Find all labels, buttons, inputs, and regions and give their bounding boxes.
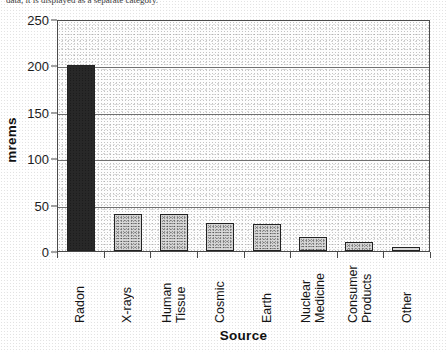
bar-earth[interactable]	[253, 224, 281, 251]
x-label-consumer-products: ConsumerProducts	[347, 259, 374, 323]
bar-other[interactable]	[392, 247, 420, 251]
x-tick-mark-8	[430, 252, 431, 258]
x-label-slot-0: Radon	[57, 259, 104, 323]
bar-slot-5	[290, 21, 336, 251]
bar-series	[58, 21, 429, 251]
bar-cosmic[interactable]	[206, 223, 234, 251]
x-label-slot-7: Other	[383, 259, 430, 323]
x-label-nuclear-medicine: NuclearMedicine	[300, 259, 327, 323]
bar-slot-4	[244, 21, 290, 251]
x-tick-mark-1	[104, 252, 105, 258]
y-tick-label-150: 150	[27, 106, 49, 119]
x-tick-mark-2	[150, 252, 151, 258]
y-axis-tick-labels: 050100150200250	[0, 0, 57, 272]
x-label-slot-6: ConsumerProducts	[337, 259, 384, 323]
x-tick-mark-3	[197, 252, 198, 258]
x-label-line-6-0: Consumer	[347, 259, 360, 323]
x-label-line-5-0: Nuclear	[300, 259, 313, 323]
bar-slot-1	[104, 21, 150, 251]
x-label-slot-5: NuclearMedicine	[290, 259, 337, 323]
x-tick-mark-0	[57, 252, 58, 258]
bar-slot-7	[383, 21, 429, 251]
y-tick-label-0: 0	[42, 246, 49, 259]
bar-human-tissue[interactable]	[160, 214, 188, 251]
x-label-cosmic: Cosmic	[214, 259, 227, 323]
bar-slot-6	[336, 21, 382, 251]
x-label-x-rays: X-rays	[120, 259, 133, 323]
x-label-line-2-1: Tissue	[174, 259, 187, 323]
x-tick-mark-4	[244, 252, 245, 258]
chart-page: data, it is displayed as a separate cate…	[0, 0, 446, 352]
plot-area	[57, 20, 430, 252]
x-label-radon: Radon	[74, 259, 87, 323]
x-label-slot-3: Cosmic	[197, 259, 244, 323]
bar-slot-3	[197, 21, 243, 251]
x-label-human-tissue: HumanTissue	[160, 259, 187, 323]
x-label-earth: Earth	[260, 259, 273, 323]
y-tick-label-200: 200	[27, 60, 49, 73]
x-tick-mark-6	[337, 252, 338, 258]
x-label-line-0-0: Radon	[74, 259, 87, 323]
x-label-other: Other	[400, 259, 413, 323]
x-axis-tick-marks	[57, 252, 430, 259]
x-label-line-6-1: Products	[361, 259, 374, 323]
x-label-line-7-0: Other	[400, 259, 413, 323]
bar-nuclear-medicine[interactable]	[299, 237, 327, 251]
bar-slot-2	[151, 21, 197, 251]
bar-slot-0	[58, 21, 104, 251]
bar-radon[interactable]	[67, 65, 95, 251]
x-label-slot-4: Earth	[244, 259, 291, 323]
x-axis-title: Source	[57, 328, 430, 343]
x-label-slot-1: X-rays	[104, 259, 151, 323]
y-tick-label-250: 250	[27, 14, 49, 27]
x-label-line-3-0: Cosmic	[214, 259, 227, 323]
y-tick-label-100: 100	[27, 153, 49, 166]
x-label-line-4-0: Earth	[260, 259, 273, 323]
x-tick-mark-7	[383, 252, 384, 258]
x-label-line-2-0: Human	[160, 259, 173, 323]
x-label-line-1-0: X-rays	[120, 259, 133, 323]
x-axis-tick-labels: RadonX-raysHumanTissueCosmicEarthNuclear…	[57, 259, 430, 323]
bar-consumer-products[interactable]	[345, 242, 373, 251]
x-tick-mark-5	[290, 252, 291, 258]
x-label-slot-2: HumanTissue	[150, 259, 197, 323]
y-tick-label-50: 50	[35, 199, 49, 212]
bar-x-rays[interactable]	[114, 214, 142, 251]
x-label-line-5-1: Medicine	[314, 259, 327, 323]
